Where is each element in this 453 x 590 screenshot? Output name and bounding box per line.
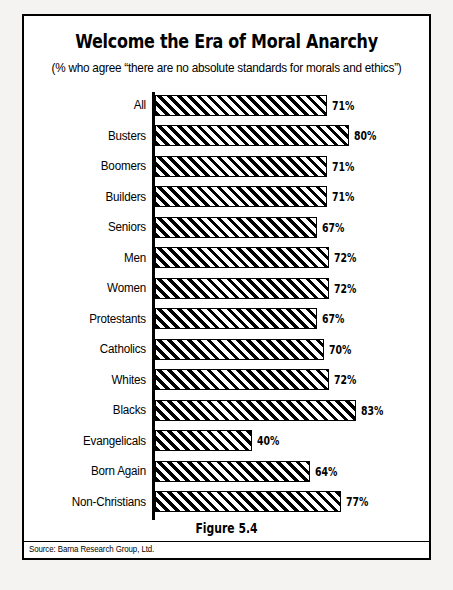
category-label: Women (33, 282, 146, 295)
bar-rows: All71%Busters80%Boomers71%Builders71%Sen… (24, 90, 433, 517)
bar-row: Busters80% (24, 121, 433, 152)
source-text: Source: Barna Research Group, Ltd. (29, 544, 154, 554)
bar-row: Men72% (24, 243, 433, 274)
figure-frame: Welcome the Era of Moral Anarchy (% who … (22, 14, 431, 560)
category-label: Builders (33, 191, 146, 204)
chart-title: Welcome the Era of Moral Anarchy (56, 30, 396, 52)
category-label: Non-Christians (33, 496, 146, 509)
bar (155, 430, 252, 451)
bar-row: Evangelicals40% (24, 426, 433, 457)
bar-value-label: 71% (332, 99, 354, 112)
bar-row: Builders71% (24, 182, 433, 213)
bar-with-value: 72% (155, 369, 365, 391)
bar-row: Blacks83% (24, 395, 433, 426)
category-label: All (33, 99, 146, 112)
bar-with-value: 67% (155, 216, 353, 238)
category-label: Busters (33, 130, 146, 143)
bar (155, 400, 356, 421)
bar-row: Born Again64% (24, 456, 433, 487)
bar-with-value: 71% (155, 186, 363, 208)
figure-caption: Figure 5.4 (65, 520, 389, 536)
category-label: Seniors (33, 221, 146, 234)
category-label: Boomers (33, 160, 146, 173)
source-bar: Source: Barna Research Group, Ltd. (24, 541, 429, 558)
category-label: Born Again (33, 465, 146, 478)
category-label: Whites (33, 374, 146, 387)
bar-with-value: 83% (155, 399, 392, 421)
bar-value-label: 83% (361, 404, 383, 417)
bar-value-label: 72% (334, 251, 356, 264)
category-label: Catholics (33, 343, 146, 356)
bar-value-label: 40% (257, 434, 279, 447)
bar-value-label: 71% (332, 190, 354, 203)
bar-with-value: 72% (155, 247, 365, 269)
bar-with-value: 80% (155, 125, 385, 147)
bar (155, 278, 329, 299)
bar-value-label: 64% (315, 465, 337, 478)
bar (155, 186, 327, 207)
bar-row: Non-Christians77% (24, 487, 433, 518)
bar (155, 491, 341, 512)
bar (155, 95, 327, 116)
bar (155, 156, 327, 177)
bar-value-label: 72% (334, 373, 356, 386)
bar-with-value: 72% (155, 277, 365, 299)
bar (155, 461, 310, 482)
bar (155, 369, 329, 390)
bar-value-label: 67% (322, 312, 344, 325)
bar-value-label: 67% (322, 221, 344, 234)
category-label: Evangelicals (33, 435, 146, 448)
bar-with-value: 67% (155, 308, 353, 330)
bar-row: Women72% (24, 273, 433, 304)
bar-with-value: 40% (155, 430, 288, 452)
category-label: Blacks (33, 404, 146, 417)
bar-with-value: 77% (155, 491, 377, 513)
bar-value-label: 77% (346, 495, 368, 508)
chart-subtitle: (% who agree “there are no absolute stan… (34, 61, 419, 75)
bar-value-label: 80% (354, 129, 376, 142)
bar (155, 217, 317, 238)
bar-value-label: 72% (334, 282, 356, 295)
category-label: Protestants (33, 313, 146, 326)
bar-value-label: 71% (332, 160, 354, 173)
bar-row: Protestants67% (24, 304, 433, 335)
bar-with-value: 71% (155, 155, 363, 177)
bar-row: All71% (24, 90, 433, 121)
plot-area: All71%Busters80%Boomers71%Builders71%Sen… (24, 90, 433, 528)
bar-row: Catholics70% (24, 334, 433, 365)
category-label: Men (33, 252, 146, 265)
bar (155, 308, 317, 329)
bar (155, 247, 329, 268)
bar-with-value: 71% (155, 94, 363, 116)
bar-row: Seniors67% (24, 212, 433, 243)
bar-with-value: 70% (155, 338, 361, 360)
bar-value-label: 70% (329, 343, 351, 356)
bar-row: Whites72% (24, 365, 433, 396)
bar (155, 125, 349, 146)
page-background: Welcome the Era of Moral Anarchy (% who … (0, 0, 453, 590)
bar (155, 339, 324, 360)
bar-row: Boomers71% (24, 151, 433, 182)
bar-with-value: 64% (155, 460, 346, 482)
